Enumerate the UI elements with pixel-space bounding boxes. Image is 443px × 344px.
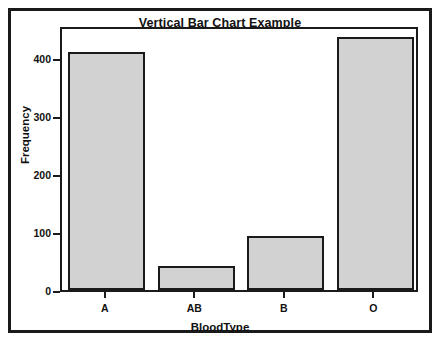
x-tick-label-B: B <box>254 302 314 314</box>
bar-AB[interactable] <box>158 266 235 290</box>
bar-B[interactable] <box>247 236 324 290</box>
x-tick-label-A: A <box>75 302 135 314</box>
x-axis-label: BloodType <box>11 321 429 333</box>
plot-area <box>60 27 418 292</box>
x-tick-mark <box>283 292 285 298</box>
bar-A[interactable] <box>68 52 145 290</box>
x-tick-label-AB: AB <box>164 302 224 314</box>
y-tick-mark <box>53 175 60 177</box>
y-tick-label: 400 <box>11 53 51 65</box>
x-tick-mark <box>104 292 106 298</box>
bar-series <box>62 29 416 290</box>
chart-figure: Vertical Bar Chart Example Frequency 010… <box>8 8 432 333</box>
bar-O[interactable] <box>337 37 414 290</box>
y-tick-label: 300 <box>11 111 51 123</box>
y-tick-mark <box>53 117 60 119</box>
x-tick-mark <box>372 292 374 298</box>
x-tick-label-O: O <box>343 302 403 314</box>
y-tick-label: 100 <box>11 227 51 239</box>
x-tick-mark <box>193 292 195 298</box>
y-tick-mark <box>53 59 60 61</box>
y-tick-label: 0 <box>11 285 51 297</box>
y-tick-mark <box>53 291 60 293</box>
y-tick-label: 200 <box>11 169 51 181</box>
y-tick-mark <box>53 233 60 235</box>
